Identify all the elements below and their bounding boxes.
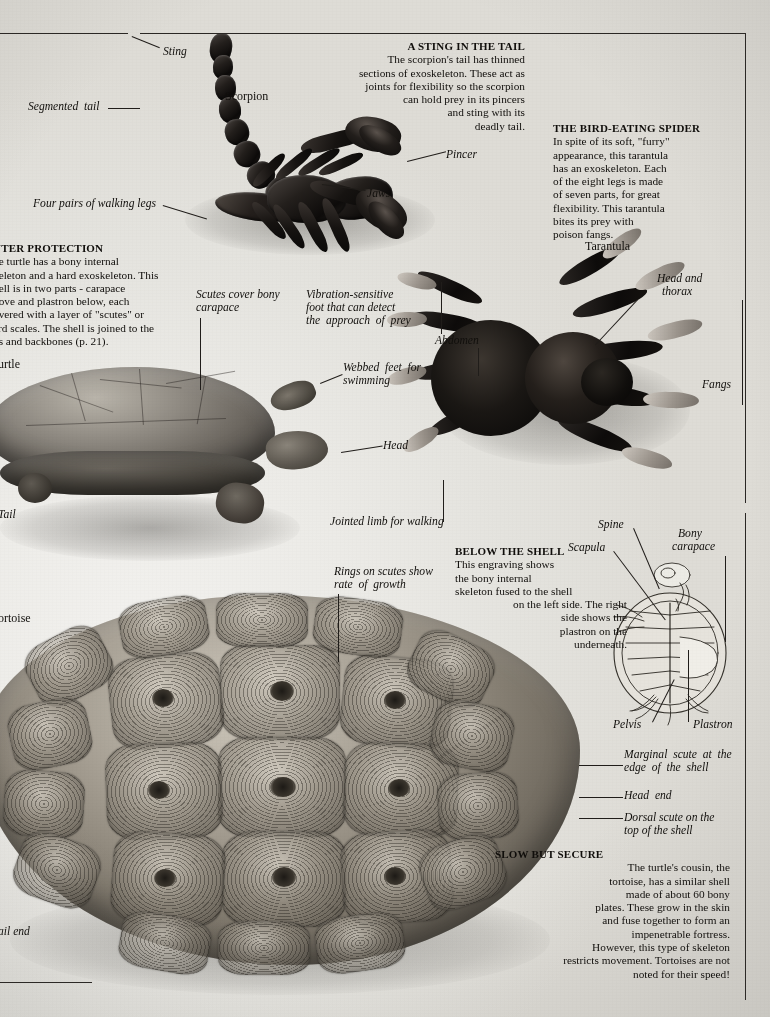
label-vibration-line3: the approach of prey	[306, 314, 411, 327]
leader-jaws	[322, 184, 366, 191]
label-four-pairs-walking-legs: Four pairs of walking legs	[33, 197, 156, 210]
panel-sting-line-5: and sting with its	[447, 106, 525, 118]
panel-sting-line-2: sections of exoskeleton. These act as	[359, 67, 525, 79]
panel-below-line-7: underneath.	[455, 638, 627, 651]
leader-marginal-scute	[579, 765, 623, 766]
leader-dorsal-scute	[579, 818, 623, 819]
label-jointed-limb: Jointed limb for walking	[330, 515, 444, 528]
label-pincer: Pincer	[446, 148, 477, 161]
panel-below-line-4: on the left side. The right	[455, 598, 627, 611]
label-tortoise: ortoise	[0, 612, 31, 625]
panel-sting-in-the-tail: A STING IN THE TAIL The scorpion's tail …	[270, 40, 525, 133]
right-vertical-rule-upper	[745, 33, 746, 503]
label-segmented-tail: Segmented tail	[28, 100, 99, 113]
panel-outer-protection-heading: UTER PROTECTION	[0, 242, 193, 255]
leader-abdomen	[478, 348, 479, 376]
panel-slow-line-4: plates. These grow in the skin	[595, 901, 730, 913]
label-jaws: Jaws	[367, 187, 390, 200]
leader-head	[341, 445, 383, 453]
label-rings-on-scutes-line2: rate of growth	[334, 578, 406, 591]
panel-slow-line-8: restricts movement. Tortoises are not	[563, 954, 730, 966]
label-head-end: Head end	[624, 789, 672, 802]
label-marginal-scute-line2: edge of the shell	[624, 761, 708, 774]
panel-slow-line-7: However, this type of skeleton	[592, 941, 730, 953]
panel-outer-protection: UTER PROTECTION he turtle has a bony int…	[0, 242, 193, 348]
panel-slow-line-1: The turtle's cousin, the	[628, 861, 730, 873]
label-sting: Sting	[163, 45, 187, 58]
panel-spider-line-1: In spite of its soft, "furry"	[553, 135, 670, 147]
label-tail-end: ail end	[0, 925, 30, 938]
leader-vibration	[441, 282, 442, 334]
leader-plastron	[688, 650, 689, 722]
panel-slow-line-6: impenetrable fortress.	[632, 928, 731, 940]
panel-below-the-shell: BELOW THE SHELL This engraving shows the…	[455, 545, 627, 651]
label-vibration-line1: Vibration-sensitive	[306, 288, 393, 301]
panel-below-line-2: the bony internal	[455, 572, 627, 585]
panel-outer-line-4: bove and plastron below, each	[0, 295, 129, 307]
panel-sting-line-1: The scorpion's tail has thinned	[387, 53, 525, 65]
top-rule-left	[0, 33, 128, 34]
label-tarantula: Tarantula	[585, 240, 630, 253]
label-head: Head	[383, 439, 408, 452]
leader-fangs	[742, 300, 743, 405]
panel-slow-heading: SLOW BUT SECURE	[455, 848, 730, 861]
label-rings-on-scutes-line1: Rings on scutes show	[334, 565, 433, 578]
leader-head-and-thorax	[595, 299, 638, 345]
panel-spider-line-7: bites its prey with	[553, 215, 634, 227]
panel-spider-line-6: flexibility. This tarantula	[553, 202, 665, 214]
label-scutes-cover-line2: carapace	[196, 301, 239, 314]
panel-outer-line-1: he turtle has a bony internal	[0, 255, 119, 267]
bottom-rule-left	[0, 982, 92, 983]
leader-bony-carapace	[725, 556, 726, 642]
leader-walking-legs	[163, 205, 207, 219]
panel-slow-line-5: and fuse together to form an	[602, 914, 730, 926]
panel-sting-heading: A STING IN THE TAIL	[270, 40, 525, 53]
right-vertical-rule-lower	[745, 513, 746, 1000]
panel-bird-eating-spider: THE BIRD-EATING SPIDER In spite of its s…	[553, 122, 753, 242]
leader-segmented-tail	[108, 108, 140, 109]
panel-slow-line-3: made of about 60 bony	[626, 888, 730, 900]
label-dorsal-scute-line2: top of the shell	[624, 824, 693, 837]
label-bony-carapace-line1: Bony	[678, 527, 702, 540]
leader-scutes-cover	[200, 318, 201, 390]
panel-spider-heading: THE BIRD-EATING SPIDER	[553, 122, 753, 135]
panel-slow-but-secure: SLOW BUT SECURE The turtle's cousin, the…	[455, 848, 730, 981]
panel-below-line-1: This engraving shows	[455, 558, 627, 571]
panel-spider-line-3: has an exoskeleton. Each	[553, 162, 667, 174]
panel-sting-line-4: can hold prey in its pincers	[403, 93, 525, 105]
label-turtle: urtle	[0, 358, 20, 371]
label-scutes-cover-line1: Scutes cover bony	[196, 288, 280, 301]
label-vibration-line2: foot that can detect	[306, 301, 395, 314]
panel-slow-line-2: tortoise, has a similar shell	[609, 875, 730, 887]
panel-outer-line-3: hell is in two parts - carapace	[0, 282, 125, 294]
leader-head-end	[579, 797, 623, 798]
label-tail: Tail	[0, 508, 16, 521]
label-pelvis: Pelvis	[613, 718, 641, 731]
turtle-photo	[0, 355, 340, 570]
leader-pincer	[407, 151, 446, 162]
panel-sting-line-6: deadly tail.	[475, 120, 525, 132]
leader-rings-on-scutes	[338, 594, 339, 662]
label-fangs: Fangs	[702, 378, 731, 391]
label-head-and-thorax-line2: thorax	[662, 285, 692, 298]
panel-sting-line-3: joints for flexibility so the scorpion	[365, 80, 525, 92]
panel-below-line-3: skeleton fused to the shell	[455, 585, 627, 598]
panel-outer-line-2: keleton and a hard exoskeleton. This	[0, 269, 158, 281]
label-dorsal-scute-line1: Dorsal scute on the	[624, 811, 715, 824]
panel-outer-line-7: bs and backbones (p. 21).	[0, 335, 108, 347]
label-scapula: Scapula	[568, 541, 605, 554]
leader-webbed-feet	[320, 374, 343, 384]
label-scorpion: Scorpion	[225, 90, 268, 103]
panel-spider-line-5: of seven parts, for great	[553, 188, 660, 200]
panel-spider-line-4: of the eight legs is made	[553, 175, 663, 187]
label-webbed-feet-line2: swimming	[343, 374, 390, 387]
leader-sting	[132, 36, 160, 48]
label-plastron: Plastron	[693, 718, 733, 731]
label-bony-carapace-line2: carapace	[672, 540, 715, 553]
leader-jointed-limb	[443, 480, 444, 522]
label-marginal-scute-line1: Marginal scute at the	[624, 748, 732, 761]
book-page: A STING IN THE TAIL The scorpion's tail …	[0, 0, 770, 1017]
panel-slow-line-9: noted for their speed!	[633, 968, 730, 980]
label-head-and-thorax-line1: Head and	[657, 272, 702, 285]
top-rule-right	[140, 33, 745, 34]
